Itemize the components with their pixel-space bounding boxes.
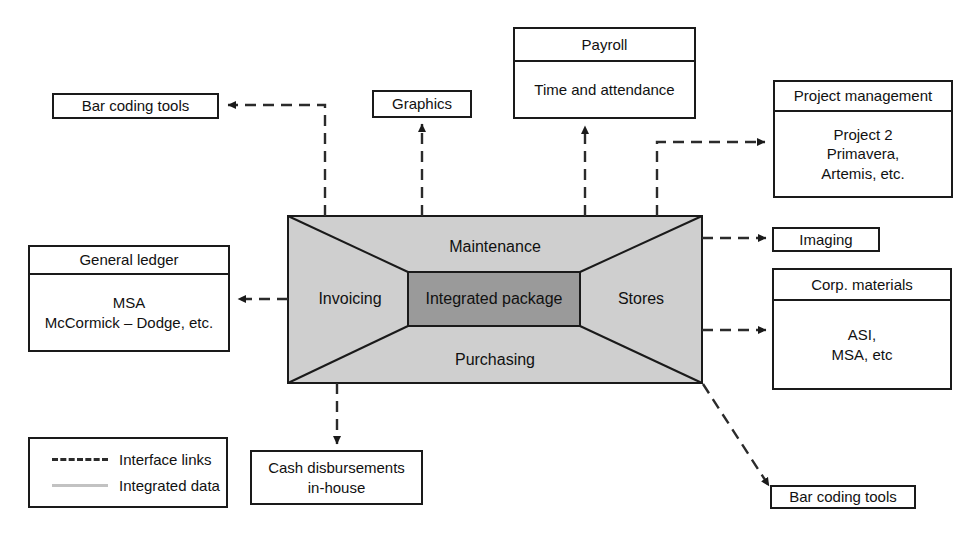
node-general-ledger-header: General ledger [30,247,228,275]
node-project-management-header: Project management [775,82,951,112]
node-payroll[interactable]: Payroll Time and attendance [513,27,696,119]
node-cash-disbursements-label: Cash disbursements in-house [261,452,412,503]
node-bar-coding-tools-bottom[interactable]: Bar coding tools [770,485,916,509]
legend-item-interface-links: Interface links [52,451,226,468]
node-corp-materials[interactable]: Corp. materials ASI, MSA, etc [772,268,952,390]
node-graphics-label: Graphics [385,91,459,117]
node-corp-materials-body: ASI, MSA, etc [774,301,950,388]
node-imaging-label: Imaging [792,227,859,253]
node-corp-materials-header: Corp. materials [774,270,950,301]
link-to-bar-coding-top [228,105,325,216]
node-payroll-body: Time and attendance [515,62,694,117]
diagram-canvas: Maintenance Purchasing Invoicing Stores … [0,0,978,537]
node-general-ledger[interactable]: General ledger MSA McCormick – Dodge, et… [28,245,230,352]
legend-swatch-dashed-icon [52,458,108,461]
node-bar-coding-tools-top[interactable]: Bar coding tools [52,93,219,119]
legend-label-interface-links: Interface links [119,451,212,468]
link-to-project-management [657,142,765,216]
node-graphics[interactable]: Graphics [372,90,472,118]
node-cash-disbursements[interactable]: Cash disbursements in-house [250,450,423,505]
node-bar-coding-tools-top-label: Bar coding tools [75,93,197,119]
legend-item-integrated-data: Integrated data [52,477,226,494]
integrated-package-shape [288,216,702,383]
node-general-ledger-body: MSA McCormick – Dodge, etc. [30,275,228,350]
node-payroll-header: Payroll [515,29,694,62]
legend: Interface links Integrated data [28,437,228,508]
node-project-management[interactable]: Project management Project 2 Primavera, … [773,80,953,198]
link-to-bar-coding-bottom [703,384,769,486]
legend-label-integrated-data: Integrated data [119,477,220,494]
node-imaging[interactable]: Imaging [772,227,880,252]
node-project-management-body: Project 2 Primavera, Artemis, etc. [775,112,951,196]
legend-swatch-solid-icon [52,484,108,487]
node-bar-coding-tools-bottom-label: Bar coding tools [782,484,904,510]
